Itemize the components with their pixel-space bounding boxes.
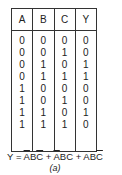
cell: 1 xyxy=(19,119,25,131)
cell: 0 xyxy=(19,35,25,47)
cell: 1 xyxy=(62,119,68,131)
header-c: C xyxy=(55,9,75,31)
column-a: A 0 0 0 0 1 1 1 1 xyxy=(12,9,33,151)
cell: 1 xyxy=(83,107,89,119)
term3-c-bar: C xyxy=(96,151,103,162)
cell: 0 xyxy=(83,47,89,59)
cell: 1 xyxy=(41,71,47,83)
cell: 0 xyxy=(41,95,47,107)
cell: 1 xyxy=(83,71,89,83)
term2-bc: BC xyxy=(60,151,73,162)
cell: 0 xyxy=(62,83,68,95)
term3-ab: AB xyxy=(83,151,96,162)
cell: 1 xyxy=(41,59,47,71)
formula-lhs: Y = xyxy=(7,151,23,162)
truth-table: A 0 0 0 0 1 1 1 1 B 0 0 1 1 0 0 1 1 C 0 … xyxy=(11,8,97,152)
header-a: A xyxy=(12,9,32,31)
cell: 0 xyxy=(62,107,68,119)
cell: 0 xyxy=(83,95,89,107)
boolean-expression: Y = ABC + ABC + ABC xyxy=(0,151,110,162)
cell: 0 xyxy=(83,119,89,131)
cell: 1 xyxy=(19,83,25,95)
cell: 1 xyxy=(62,71,68,83)
cell: 1 xyxy=(83,59,89,71)
cell: 0 xyxy=(62,59,68,71)
cell: 1 xyxy=(62,47,68,59)
column-c: C 0 1 0 1 0 1 0 1 xyxy=(55,9,76,151)
header-y: Y xyxy=(76,9,96,31)
figure-caption: (a) xyxy=(0,163,110,173)
cell: 0 xyxy=(19,71,25,83)
header-b: B xyxy=(33,9,53,31)
column-b: B 0 0 1 1 0 0 1 1 xyxy=(33,9,54,151)
cell: 0 xyxy=(83,35,89,47)
cell: 1 xyxy=(41,107,47,119)
column-y: Y 0 0 1 1 0 0 1 0 xyxy=(76,9,96,151)
cell: 0 xyxy=(83,83,89,95)
cell: 1 xyxy=(41,119,47,131)
cell: 0 xyxy=(41,83,47,95)
cell: 0 xyxy=(19,47,25,59)
cell: 0 xyxy=(19,59,25,71)
cell: 0 xyxy=(41,35,47,47)
cell: 1 xyxy=(62,95,68,107)
cell: 1 xyxy=(19,95,25,107)
cell: 1 xyxy=(19,107,25,119)
cell: 0 xyxy=(62,35,68,47)
plus: + xyxy=(73,151,83,162)
plus: + xyxy=(43,151,53,162)
cell: 0 xyxy=(41,47,47,59)
